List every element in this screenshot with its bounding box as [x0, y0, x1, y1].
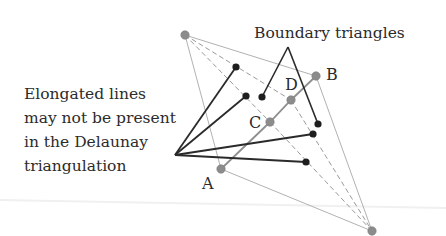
gray-point-A: [217, 165, 225, 173]
delaunay-diagram: Boundary triangles Elongated lines may n…: [0, 0, 446, 236]
black-point: [258, 93, 265, 100]
scan-artifact-line: [0, 200, 446, 208]
point-label-C: C: [249, 113, 261, 132]
gray-point-top: [181, 31, 189, 39]
gray-point-B: [312, 72, 320, 80]
caption-line-2: may not be present: [24, 109, 177, 127]
point-label-D: D: [285, 75, 298, 94]
caption-line-3: in the Delaunay: [24, 133, 148, 151]
black-point: [242, 92, 249, 99]
point-label-A: A: [201, 174, 214, 193]
black-point: [314, 120, 321, 127]
boundary-triangles-label: Boundary triangles: [254, 24, 405, 42]
hull-A-to-bottom: [221, 169, 372, 231]
caption-line-4: triangulation: [24, 157, 126, 175]
elongated-line-4: [175, 155, 306, 162]
black-point: [232, 63, 239, 70]
gray-point-D: [287, 96, 295, 104]
black-point: [309, 130, 316, 137]
hull-B-to-bottom: [316, 76, 372, 231]
gray-point-bottom: [368, 227, 376, 235]
gray-point-C: [266, 118, 274, 126]
black-point: [302, 158, 309, 165]
point-label-B: B: [326, 65, 338, 84]
caption-line-1: Elongated lines: [24, 85, 146, 103]
